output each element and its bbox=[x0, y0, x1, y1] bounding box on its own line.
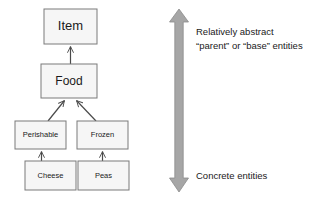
edge-perishable-to-food bbox=[48, 101, 65, 122]
node-frozen[interactable]: Frozen bbox=[77, 121, 128, 149]
node-item[interactable]: Item bbox=[44, 9, 97, 44]
node-cheese-label: Cheese bbox=[38, 171, 64, 180]
axis-top-annotation: Relatively abstract “parent” or “base” e… bbox=[196, 26, 303, 51]
node-item-label: Item bbox=[58, 18, 83, 33]
axis-top-label-line1: Relatively abstract bbox=[196, 26, 274, 37]
node-peas[interactable]: Peas bbox=[78, 161, 129, 190]
node-peas-label: Peas bbox=[95, 171, 112, 180]
axis-top-label-line2: “parent” or “base” entities bbox=[196, 40, 303, 51]
hierarchy-diagram: Item Food Perishable Frozen Cheese Peas bbox=[0, 0, 324, 206]
node-food-label: Food bbox=[55, 74, 82, 88]
node-perishable-label: Perishable bbox=[23, 130, 58, 139]
axis-bottom-label: Concrete entities bbox=[196, 170, 268, 181]
double-arrow-shape bbox=[170, 9, 189, 192]
node-frozen-label: Frozen bbox=[91, 130, 114, 139]
edge-frozen-to-food bbox=[77, 101, 97, 122]
node-food[interactable]: Food bbox=[41, 64, 97, 98]
abstraction-axis bbox=[170, 9, 189, 192]
axis-bottom-annotation: Concrete entities bbox=[196, 170, 268, 181]
node-cheese[interactable]: Cheese bbox=[25, 161, 76, 190]
node-perishable[interactable]: Perishable bbox=[15, 121, 66, 149]
diagram-canvas: Item Food Perishable Frozen Cheese Peas bbox=[0, 0, 324, 206]
